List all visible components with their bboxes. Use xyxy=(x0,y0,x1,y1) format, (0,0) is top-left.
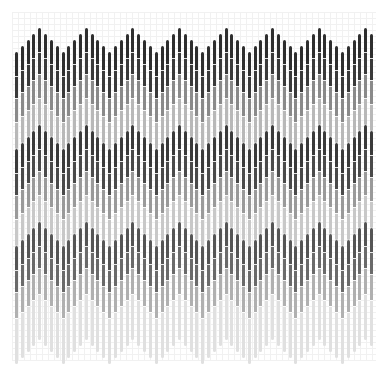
segment-separator xyxy=(21,167,24,168)
bar-segment xyxy=(236,258,239,280)
segment-separator xyxy=(201,292,204,293)
bar-band-1 xyxy=(341,52,344,149)
segment-separator xyxy=(96,258,99,259)
bar-band-3 xyxy=(213,234,216,352)
segment-separator xyxy=(318,52,321,53)
segment-separator xyxy=(219,80,222,81)
bar-segment xyxy=(32,274,35,300)
bar-segment xyxy=(155,246,158,270)
segment-separator xyxy=(219,201,222,202)
bar-band-2 xyxy=(318,125,321,222)
bar-segment xyxy=(277,228,280,252)
bar-segment xyxy=(91,58,94,80)
bar-segment xyxy=(289,46,292,70)
bar-segment xyxy=(312,80,315,104)
bar-segment xyxy=(21,312,24,358)
segment-separator xyxy=(190,86,193,87)
segment-separator xyxy=(44,104,47,105)
bar-segment xyxy=(358,252,361,274)
bar-segment xyxy=(161,189,164,213)
bar-segment xyxy=(62,76,65,98)
bar-band-2 xyxy=(143,137,146,234)
segment-separator xyxy=(126,201,129,202)
bar-segment xyxy=(21,167,24,189)
bar-segment xyxy=(271,125,274,149)
bar-segment xyxy=(364,52,367,74)
segment-separator xyxy=(149,70,152,71)
bar-segment xyxy=(230,228,233,252)
segment-separator xyxy=(131,246,134,247)
bar-segment xyxy=(207,92,210,116)
segment-separator xyxy=(347,213,350,214)
bar-segment xyxy=(67,143,70,167)
bar-segment xyxy=(219,228,222,252)
bar-segment xyxy=(137,228,140,252)
bar-band-2 xyxy=(277,131,280,228)
bar-segment xyxy=(161,46,164,70)
bar-segment xyxy=(161,213,164,240)
bar-segment xyxy=(44,228,47,252)
bar-segment xyxy=(318,125,321,149)
segment-separator xyxy=(50,161,53,162)
bar-segment xyxy=(21,240,24,264)
segment-separator xyxy=(32,300,35,301)
bar-band-1 xyxy=(306,40,309,137)
bar-band-1 xyxy=(27,40,30,137)
bar-segment xyxy=(190,234,193,258)
bar-segment xyxy=(213,137,216,161)
segment-separator xyxy=(207,312,210,313)
bar-segment xyxy=(201,219,204,246)
bar-segment xyxy=(178,98,181,125)
segment-separator xyxy=(294,292,297,293)
segment-separator xyxy=(172,155,175,156)
bar-segment xyxy=(131,171,134,195)
bar-segment xyxy=(259,137,262,161)
bar-band-2 xyxy=(347,143,350,240)
bar-band-3 xyxy=(219,228,222,346)
bar-segment xyxy=(114,312,117,358)
bar-segment xyxy=(213,40,216,64)
bar-band-1 xyxy=(114,46,117,143)
bar-segment xyxy=(178,74,181,98)
segment-separator xyxy=(85,268,88,269)
segment-separator xyxy=(38,195,41,196)
bar-segment xyxy=(190,40,193,64)
bar-segment xyxy=(44,131,47,155)
bar-segment xyxy=(341,52,344,76)
bar-segment xyxy=(62,98,65,122)
bar-segment xyxy=(265,104,268,131)
bar-segment xyxy=(50,280,53,306)
bar-segment xyxy=(277,80,280,104)
bar-segment xyxy=(73,64,76,86)
bar-segment xyxy=(27,64,30,86)
bar-band-1 xyxy=(219,34,222,131)
segment-separator xyxy=(73,306,76,307)
bar-segment xyxy=(306,110,309,137)
bar-segment xyxy=(225,246,228,268)
segment-separator xyxy=(143,110,146,111)
segment-separator xyxy=(294,76,297,77)
segment-separator xyxy=(306,258,309,259)
segment-separator xyxy=(358,252,361,253)
bar-segment xyxy=(91,34,94,58)
bar-band-1 xyxy=(190,40,193,137)
segment-separator xyxy=(236,280,239,281)
bar-segment xyxy=(335,167,338,189)
bar-segment xyxy=(143,86,146,110)
bar-segment xyxy=(91,104,94,131)
bar-segment xyxy=(85,125,88,149)
bar-segment xyxy=(289,116,292,143)
bar-segment xyxy=(277,252,280,274)
bar-segment xyxy=(96,207,99,234)
bar-segment xyxy=(56,312,59,358)
bar-band-3 xyxy=(15,246,18,364)
bar-segment xyxy=(96,137,99,161)
bar-segment xyxy=(236,306,239,352)
bar-segment xyxy=(50,161,53,183)
bar-segment xyxy=(353,161,356,183)
segment-separator xyxy=(259,306,262,307)
bar-band-3 xyxy=(294,246,297,364)
bar-segment xyxy=(21,46,24,70)
bar-band-3 xyxy=(323,228,326,346)
segment-separator xyxy=(219,252,222,253)
